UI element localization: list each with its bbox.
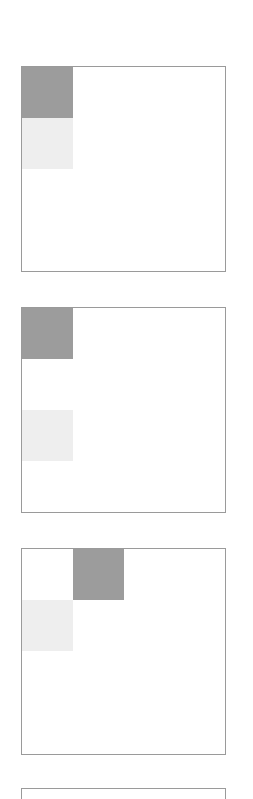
heatmap-panel	[21, 307, 226, 513]
heatmap-cell-grid	[22, 549, 225, 754]
heatmap-cell-grid	[22, 789, 225, 799]
heatmap-cell-grid	[22, 67, 225, 271]
heatmap-cell	[22, 118, 73, 169]
heatmap-cell	[22, 67, 73, 118]
heatmap-cell	[22, 410, 73, 461]
heatmap-cell	[73, 549, 124, 600]
figure-canvas	[0, 0, 253, 799]
heatmap-panel	[21, 66, 226, 272]
heatmap-cell	[22, 600, 73, 651]
heatmap-cell	[22, 308, 73, 359]
heatmap-panel	[21, 548, 226, 755]
heatmap-cell-grid	[22, 308, 225, 512]
heatmap-panel	[21, 788, 226, 799]
